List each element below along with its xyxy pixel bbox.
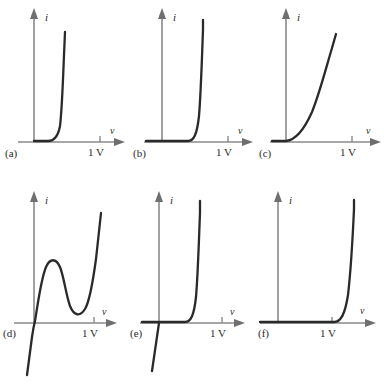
diode-iv-characteristics-figure: i v 1 V (a) i v 1 V (b) [0, 0, 384, 384]
panel-b-curve [146, 20, 203, 141]
panel-b: i v 1 V (b) [128, 0, 256, 175]
panel-c: i v 1 V (c) [256, 0, 384, 175]
panel-e-reverse-branch-curve [152, 323, 159, 371]
panel-c-plot [256, 0, 384, 175]
panel-d-caption: (d) [3, 328, 16, 339]
panel-a-plot [0, 0, 128, 175]
panel-a-caption: (a) [5, 148, 17, 159]
panel-d-current-axis-arrowhead [30, 191, 38, 202]
panel-e-curve [142, 201, 200, 322]
panel-c-curve [272, 34, 336, 141]
panel-f-voltage-axis-arrowhead [365, 319, 376, 327]
panel-e-plot [128, 175, 256, 384]
panel-b-current-axis-label: i [173, 12, 176, 23]
panel-a-current-axis-label: i [45, 12, 48, 23]
panel-c-axes [270, 8, 381, 146]
panel-c-current-axis-arrowhead [282, 8, 290, 19]
panel-a-axes [18, 8, 125, 146]
panel-f-tick-label: 1 V [320, 328, 336, 339]
panel-c-voltage-axis-arrowhead [370, 138, 381, 146]
panel-d-voltage-axis-label: v [102, 307, 106, 317]
panel-d-voltage-axis-arrowhead [106, 319, 117, 327]
panel-f-current-axis-arrowhead [274, 191, 282, 202]
panel-a-tick-label: 1 V [88, 147, 104, 158]
panel-b-plot [128, 0, 256, 175]
panel-e-current-axis-arrowhead [155, 191, 163, 202]
panel-a-current-axis-arrowhead [30, 8, 38, 19]
panel-f-voltage-axis-label: v [360, 306, 364, 316]
panel-c-current-axis-label: i [297, 12, 300, 23]
panel-f: i v 1 V (f) [256, 175, 384, 384]
panel-f-plot [256, 175, 384, 384]
panel-b-caption: (b) [133, 148, 146, 159]
panel-d-current-axis-label: i [45, 195, 48, 206]
panel-e-tick-label: 1 V [210, 328, 226, 339]
panel-c-caption: (c) [259, 148, 271, 159]
panel-e-voltage-axis-arrowhead [234, 319, 245, 327]
panel-b-voltage-axis-arrowhead [242, 138, 253, 146]
panel-c-voltage-axis-label: v [366, 126, 370, 136]
panel-b-current-axis-arrowhead [158, 8, 166, 19]
panel-b-tick-label: 1 V [216, 147, 232, 158]
panel-d: i v 1 V (d) [0, 175, 128, 384]
panel-d-plot [0, 175, 128, 384]
panel-b-voltage-axis-label: v [238, 126, 242, 136]
panel-f-caption: (f) [258, 328, 269, 339]
panel-f-current-axis-label: i [289, 195, 292, 206]
panel-e-caption: (e) [130, 328, 142, 339]
panel-a-voltage-axis-arrowhead [114, 138, 125, 146]
panel-a: i v 1 V (a) [0, 0, 128, 175]
panel-a-voltage-axis-label: v [110, 126, 114, 136]
panel-e-voltage-axis-label: v [230, 307, 234, 317]
panel-e: i v 1 V (e) [128, 175, 256, 384]
panel-e-current-axis-label: i [170, 195, 173, 206]
panel-a-curve [34, 32, 65, 141]
panel-f-axes [260, 191, 376, 327]
panel-d-tick-label: 1 V [82, 328, 98, 339]
panel-f-curve [260, 200, 354, 322]
panel-d-curve [27, 213, 101, 375]
panel-c-tick-label: 1 V [340, 147, 356, 158]
